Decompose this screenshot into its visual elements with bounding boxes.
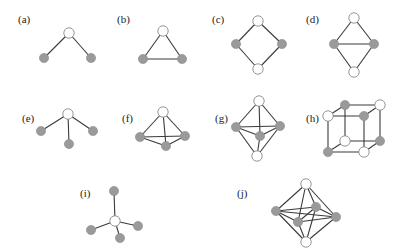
panel-h: (h) (306, 100, 385, 157)
panel-label: (c) (212, 13, 225, 26)
graph-edge (236, 126, 280, 127)
graph-edge (276, 211, 306, 242)
grey-node (255, 131, 264, 140)
panel-j: (j) (237, 179, 341, 247)
white-node (323, 111, 333, 121)
panel-g: (g) (215, 96, 285, 161)
panel-label: (a) (18, 13, 31, 26)
panel-label: (b) (117, 13, 130, 26)
grey-node (133, 221, 142, 230)
grey-node (115, 233, 124, 242)
panel-f: (f) (122, 107, 190, 151)
white-node (340, 136, 350, 146)
panel-label: (j) (237, 187, 248, 200)
grey-node (340, 100, 349, 109)
white-node (253, 16, 263, 26)
grey-node (323, 147, 332, 156)
white-node (64, 28, 74, 38)
graph-edge (140, 136, 185, 137)
grey-node (369, 39, 378, 48)
white-node (301, 237, 311, 247)
grey-node (161, 141, 170, 150)
white-node (301, 179, 311, 189)
grey-node (86, 53, 95, 62)
panel-label: (d) (306, 13, 319, 26)
white-node (254, 96, 264, 106)
panel-label: (h) (306, 112, 319, 125)
white-node (158, 26, 168, 36)
grey-node (359, 111, 368, 120)
grey-node (329, 39, 338, 48)
white-node (349, 13, 359, 23)
white-node (253, 64, 263, 74)
panel-label: (e) (22, 112, 35, 125)
grey-node (277, 39, 286, 48)
graph-edge (257, 126, 280, 156)
grey-node (231, 122, 240, 131)
grey-node (39, 53, 48, 62)
panel-b: (b) (117, 13, 187, 64)
grey-node (177, 54, 186, 63)
grey-node (138, 54, 147, 63)
panel-d: (d) (306, 13, 379, 77)
grey-node (88, 126, 97, 135)
grey-node (271, 206, 280, 215)
grey-node (109, 186, 118, 195)
grey-node (135, 132, 144, 141)
white-node (359, 147, 369, 157)
panel-label: (f) (122, 112, 133, 125)
grey-node (331, 212, 340, 221)
grey-node (231, 39, 240, 48)
white-node (110, 216, 120, 226)
grey-node (375, 136, 384, 145)
graph-edge (276, 207, 316, 211)
white-node (349, 67, 359, 77)
grey-node (64, 139, 73, 148)
grey-node (36, 126, 45, 135)
grey-node (293, 217, 302, 226)
white-node (375, 100, 385, 110)
white-node (158, 107, 168, 117)
grey-node (311, 202, 320, 211)
grey-node (275, 121, 284, 130)
panel-c: (c) (212, 13, 287, 74)
polyhedra-graph-figure: (a)(b)(c)(d)(e)(f)(g)(h)(i)(j) (0, 0, 398, 251)
grey-node (180, 131, 189, 140)
white-node (63, 109, 73, 119)
grey-node (86, 225, 95, 234)
white-node (252, 151, 262, 161)
panel-label: (g) (215, 112, 228, 125)
panel-label: (i) (80, 187, 91, 200)
panel-i: (i) (80, 186, 143, 242)
panel-e: (e) (22, 109, 98, 149)
panel-a: (a) (18, 13, 96, 63)
